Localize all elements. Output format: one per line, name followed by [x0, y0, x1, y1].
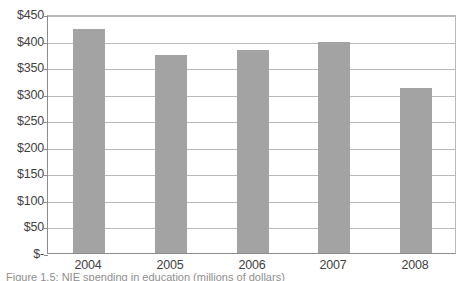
y-tick-mark	[44, 43, 48, 44]
plot-area	[47, 15, 456, 254]
y-tick-mark	[44, 69, 48, 70]
x-tick-label: 2006	[212, 258, 292, 272]
y-tick-mark	[44, 149, 48, 150]
y-tick-mark	[44, 16, 48, 17]
figure-caption: Figure 1.5: NIE spending in education (m…	[6, 271, 456, 281]
y-tick-label: $300	[0, 89, 44, 101]
y-tick-mark	[44, 228, 48, 229]
bar	[155, 55, 187, 253]
y-axis: $450$400$350$300$250$200$150$100$50$-	[0, 0, 44, 268]
y-tick-label: $50	[0, 221, 44, 233]
x-tick-label: 2004	[48, 258, 128, 272]
y-tick-label: $400	[0, 36, 44, 48]
gridline	[48, 16, 455, 17]
bar	[400, 88, 432, 253]
y-tick-mark	[44, 96, 48, 97]
bar	[318, 42, 350, 253]
y-tick-label: $450	[0, 9, 44, 21]
y-tick-label: $350	[0, 62, 44, 74]
y-tick-mark	[44, 255, 48, 256]
y-tick-label: $100	[0, 195, 44, 207]
x-tick-label: 2005	[130, 258, 210, 272]
bar-chart: $450$400$350$300$250$200$150$100$50$- 20…	[0, 0, 464, 268]
x-tick-label: 2008	[375, 258, 455, 272]
y-tick-label: $-	[0, 248, 44, 260]
y-tick-mark	[44, 122, 48, 123]
y-tick-mark	[44, 202, 48, 203]
y-tick-mark	[44, 175, 48, 176]
y-tick-label: $200	[0, 142, 44, 154]
y-tick-label: $250	[0, 115, 44, 127]
x-tick-label: 2007	[293, 258, 373, 272]
figure-container: $450$400$350$300$250$200$150$100$50$- 20…	[0, 0, 464, 281]
bar	[73, 29, 105, 253]
gridline	[48, 43, 455, 44]
y-tick-label: $150	[0, 168, 44, 180]
bar	[237, 50, 269, 253]
